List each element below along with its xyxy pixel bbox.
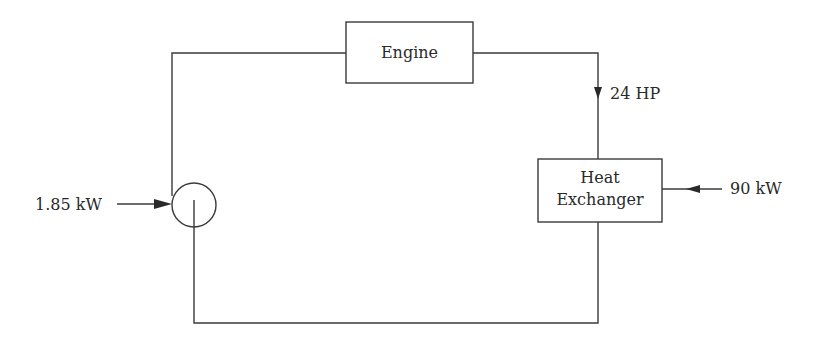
energy-loop-diagram: Engine 24 HP Heat Exchanger 90 kW 1.85 k… [0,0,823,347]
heat-exchanger-label-line1: Heat [580,168,620,187]
arrow-right-icon [154,199,172,209]
engine-label: Engine [381,43,438,62]
engine-output-label: 24 HP [610,84,660,103]
pipe-pump-to-engine [172,53,346,196]
heat-exchanger-label-line2: Exchanger [556,190,644,209]
pump-input-label: 1.85 kW [35,195,102,214]
heat-input-label: 90 kW [730,179,782,198]
pipe-engine-to-heat-exchanger [473,53,598,159]
arrow-down-icon [594,87,602,99]
arrow-left-icon [686,185,700,193]
